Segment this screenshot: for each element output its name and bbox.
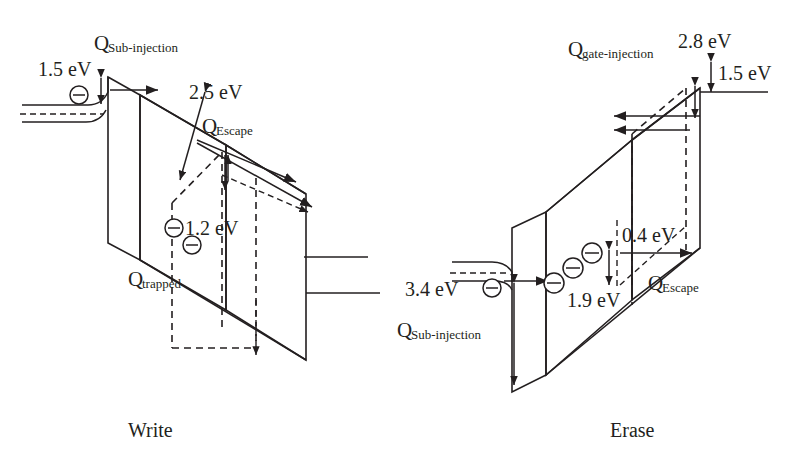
erase-caption: Erase xyxy=(610,419,655,441)
erase-15ev-label: 1.5 eV xyxy=(718,62,772,84)
erase-oxide2-slab xyxy=(632,88,700,300)
write-escape-arrow-1 xyxy=(197,140,296,182)
erase-q-gate-injection-label: Q gate-injection xyxy=(568,37,654,61)
svg-text:Q: Q xyxy=(568,37,583,61)
write-oxide2-slab xyxy=(226,145,306,360)
erase-flatband-outline-2 xyxy=(632,88,686,134)
erase-34ev-label: 3.4 eV xyxy=(405,278,459,300)
erase-trapped-electron-2 xyxy=(563,258,583,278)
svg-text:Q: Q xyxy=(128,267,143,291)
erase-19ev-label: 1.9 eV xyxy=(567,289,621,311)
svg-text:Q: Q xyxy=(94,31,109,55)
write-substrate-valence-band xyxy=(22,110,106,122)
svg-text:Q: Q xyxy=(202,114,217,138)
write-substrate-electron xyxy=(70,86,88,104)
write-panel: Q Sub-injection 1.5 eV 2.5 eV Q Escape xyxy=(20,31,380,441)
svg-text:Sub-injection: Sub-injection xyxy=(108,40,179,55)
svg-text:Escape: Escape xyxy=(662,280,699,295)
write-25ev-label: 2.5 eV xyxy=(189,81,243,103)
erase-oxide1-slab xyxy=(512,212,546,392)
svg-text:Escape: Escape xyxy=(216,123,253,138)
write-q-trapped-label: Q trapped xyxy=(128,267,181,291)
write-lower-band-edge xyxy=(140,260,306,360)
write-q-sub-injection-label: Q Sub-injection xyxy=(94,31,179,55)
erase-trapped-electron-3 xyxy=(582,243,602,263)
figure-canvas: Q Sub-injection 1.5 eV 2.5 eV Q Escape xyxy=(0,0,796,473)
write-oxide1-slab xyxy=(108,77,140,260)
svg-text:Q: Q xyxy=(648,271,663,295)
erase-28ev-label: 2.8 eV xyxy=(678,30,732,52)
erase-q-escape-label: Q Escape xyxy=(648,271,699,295)
write-substrate-conduction-band xyxy=(22,77,108,105)
erase-substrate-conduction-band xyxy=(452,262,512,282)
write-12ev-label: 1.2 eV xyxy=(185,217,239,239)
write-flatband-outline-2 xyxy=(172,152,222,203)
write-q-escape-label: Q Escape xyxy=(202,114,253,138)
svg-text:Sub-injection: Sub-injection xyxy=(411,327,482,342)
svg-text:gate-injection: gate-injection xyxy=(582,46,654,61)
erase-nitride-conduction-edge xyxy=(546,140,632,212)
svg-text:trapped: trapped xyxy=(142,276,181,291)
erase-trapped-electron-1 xyxy=(544,273,564,293)
write-15ev-label: 1.5 eV xyxy=(38,58,92,80)
write-caption: Write xyxy=(128,419,173,441)
write-trapped-electron-1 xyxy=(165,219,183,237)
erase-substrate-electron xyxy=(483,279,501,297)
band-diagram-svg: Q Sub-injection 1.5 eV 2.5 eV Q Escape xyxy=(0,0,796,473)
erase-oxide2-conduction-edge xyxy=(632,88,700,140)
erase-substrate-valence-band xyxy=(452,281,512,290)
write-escape-arrow-2 xyxy=(197,143,312,207)
erase-panel: 3.4 eV Q Sub-injection 1.9 eV 0.4 eV xyxy=(397,30,772,441)
erase-q-sub-injection-label: Q Sub-injection xyxy=(397,318,482,342)
svg-text:Q: Q xyxy=(397,318,412,342)
